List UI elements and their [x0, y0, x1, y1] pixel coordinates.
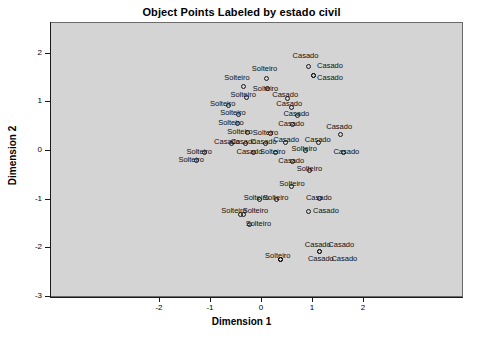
x-axis-tick-label: -2 — [144, 303, 174, 312]
y-axis-tick-label: -1 — [18, 194, 42, 203]
chart-container: Object Points Labeled by estado civil Ca… — [0, 0, 483, 340]
x-axis-tick — [261, 297, 262, 302]
plot-area — [50, 22, 463, 297]
x-axis-tick-label: -1 — [195, 303, 225, 312]
x-axis-tick-label: 2 — [348, 303, 378, 312]
x-axis-tick — [363, 297, 364, 302]
x-axis-label: Dimension 1 — [0, 316, 483, 327]
x-axis-tick — [210, 297, 211, 302]
x-axis-line — [50, 297, 463, 298]
x-axis-tick — [159, 297, 160, 302]
y-axis-tick-label: -3 — [18, 291, 42, 300]
y-axis-label: Dimension 2 — [7, 106, 18, 206]
y-axis-tick-label: 1 — [18, 96, 42, 105]
y-axis-tick-label: -2 — [18, 242, 42, 251]
chart-title: Object Points Labeled by estado civil — [0, 6, 483, 18]
x-axis-tick-label: 0 — [246, 303, 276, 312]
y-axis-tick-label: 2 — [18, 48, 42, 57]
x-axis-tick-label: 1 — [297, 303, 327, 312]
x-axis-tick — [312, 297, 313, 302]
y-axis-tick-label: 0 — [18, 145, 42, 154]
